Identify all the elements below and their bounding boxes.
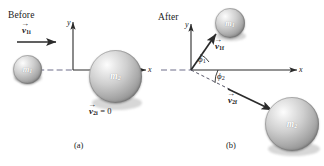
panel-a-m1-label: m1: [23, 64, 33, 74]
panel-a-y-axis-label: y: [67, 19, 71, 27]
v2i-subscript: 2i: [93, 109, 98, 116]
panel-b-x-axis-label: x: [299, 66, 303, 74]
panel-b-phi1-label: ϕ1: [198, 55, 206, 64]
panel-b-state-label: After: [158, 13, 179, 23]
panel-a-caption: (a): [74, 141, 83, 150]
panel-a-mass-m1: m1: [13, 55, 42, 84]
panel-b-y-axis-label: y: [185, 21, 189, 29]
panel-a-v1i-label: → v1i: [22, 26, 31, 35]
panel-b-v1f-label: → v1f: [215, 42, 224, 51]
panel-b-v2f-dashed-guide: [191, 70, 233, 91]
v1i-subscript: 1i: [26, 28, 31, 35]
v2f-vector-arrow-accent: →: [227, 90, 235, 98]
v2i-vector-arrow-accent: →: [88, 101, 96, 109]
panel-b-mass-m1: m1: [215, 8, 245, 38]
v1f-subscript: 1f: [219, 44, 224, 51]
panel-b-caption: (b): [226, 141, 236, 150]
v1i-vector-arrow-accent: →: [21, 20, 29, 28]
panel-b-mass-m2: m2: [265, 97, 319, 151]
panel-a-m2-label: m2: [110, 71, 120, 81]
panel-b-m2-label: m2: [287, 119, 297, 129]
v1f-vector-arrow-accent: →: [214, 36, 222, 44]
v2f-subscript: 2f: [232, 98, 237, 105]
collision-figure: Before y x → v1i m1 m2 → v2i= 0 (a) Afte…: [0, 0, 324, 166]
panel-b-m1-label: m1: [225, 18, 235, 28]
panel-b-v1f-arrow: [191, 34, 216, 70]
panel-b-phi2-label: ϕ2: [217, 72, 225, 81]
panel-b-v2f-label: → v2f: [228, 96, 237, 105]
v2i-equals-zero: = 0: [100, 106, 111, 116]
panel-a-v2i-rest-label: → v2i= 0: [89, 107, 112, 116]
panel-a-mass-m2: m2: [89, 50, 142, 103]
panel-a-x-axis-label: x: [148, 66, 152, 74]
